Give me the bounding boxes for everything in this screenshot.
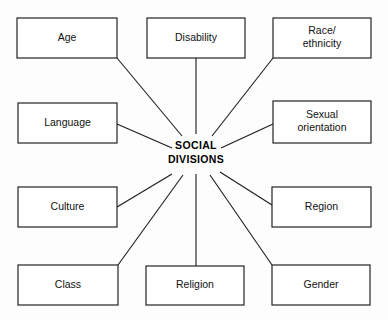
spoke-line-gender — [210, 175, 272, 265]
node-sexual-orientation-label: Sexual — [306, 108, 338, 120]
node-age[interactable]: Age — [17, 18, 117, 58]
node-class-label: Class — [55, 278, 81, 290]
node-language[interactable]: Language — [18, 103, 117, 143]
node-language-label: Language — [44, 116, 91, 128]
node-region[interactable]: Region — [272, 187, 371, 227]
spoke-line-age — [117, 58, 182, 136]
node-culture-label: Culture — [51, 200, 85, 212]
hub-label-line-2: DIVISIONS — [168, 153, 224, 165]
node-disability[interactable]: Disability — [147, 18, 245, 58]
diagram-canvas: AgeDisabilityRace/ethnicityLanguageSexua… — [0, 0, 388, 320]
node-region-label: Region — [305, 200, 338, 212]
node-race-ethnicity[interactable]: Race/ethnicity — [273, 18, 371, 58]
spoke-line-sexual-orientation — [221, 124, 273, 148]
node-sexual-orientation[interactable]: Sexualorientation — [273, 101, 371, 143]
node-gender-label: Gender — [303, 278, 339, 290]
node-race-ethnicity-label: ethnicity — [303, 37, 342, 49]
spoke-line-race-ethnicity — [212, 58, 273, 136]
node-age-label: Age — [58, 31, 77, 43]
node-class[interactable]: Class — [18, 265, 118, 305]
spoke-line-language — [117, 124, 172, 148]
node-religion-label: Religion — [176, 278, 214, 290]
node-culture[interactable]: Culture — [18, 187, 117, 227]
social-divisions-diagram: AgeDisabilityRace/ethnicityLanguageSexua… — [0, 0, 388, 320]
node-sexual-orientation-label: orientation — [297, 121, 346, 133]
hub-label-group: SOCIAL DIVISIONS — [168, 139, 224, 165]
node-race-ethnicity-label: Race/ — [308, 24, 336, 36]
spoke-line-class — [118, 175, 183, 265]
node-religion[interactable]: Religion — [146, 266, 244, 305]
node-gender[interactable]: Gender — [272, 265, 370, 305]
hub-label-line-1: SOCIAL — [175, 139, 217, 151]
node-disability-label: Disability — [175, 31, 218, 43]
